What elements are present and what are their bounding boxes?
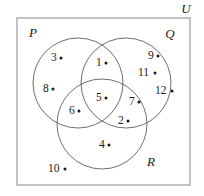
element-dot-icon [105, 97, 108, 100]
element-dot-icon [157, 55, 160, 58]
element-label: 8 [43, 82, 49, 94]
element-label: 1 [96, 56, 102, 68]
element-dot-icon [108, 144, 111, 147]
element-dot-icon [171, 90, 174, 93]
element-dot-icon [105, 62, 108, 65]
element-label: 5 [96, 91, 102, 103]
set-circle-r [57, 79, 147, 169]
venn-diagram-svg: U P Q R 381911125672410 [0, 0, 204, 196]
set-label-p: P [28, 25, 37, 40]
element-dot-icon [64, 168, 67, 171]
element-dot-icon [138, 101, 141, 104]
element-dot-icon [60, 57, 63, 60]
element-dot-icon [127, 120, 130, 123]
element-label: 10 [48, 162, 60, 174]
element-dot-icon [78, 110, 81, 113]
element-label: 6 [69, 104, 75, 116]
set-circle-q [81, 38, 171, 128]
element-dot-icon [154, 72, 157, 75]
element-label: 4 [99, 138, 105, 150]
element-dot-icon [52, 88, 55, 91]
element-label: 11 [138, 66, 149, 78]
element-label: 12 [155, 84, 167, 96]
universe-rectangle [17, 18, 190, 185]
element-label: 9 [148, 49, 154, 61]
element-label: 3 [51, 51, 57, 63]
set-label-q: Q [165, 26, 175, 41]
venn-diagram-canvas: U P Q R 381911125672410 [0, 0, 204, 196]
universe-label: U [181, 1, 192, 16]
element-label: 2 [118, 114, 124, 126]
set-label-r: R [146, 154, 155, 169]
element-label: 7 [129, 95, 135, 107]
